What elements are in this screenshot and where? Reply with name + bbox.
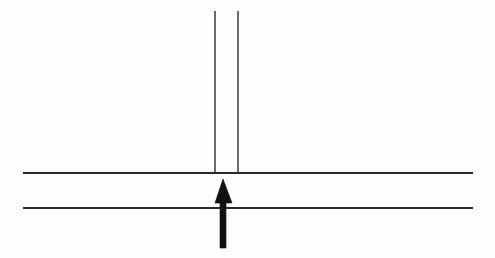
figure-drawing (0, 0, 495, 258)
figure-canvas (0, 0, 495, 258)
figure-background (0, 0, 495, 258)
